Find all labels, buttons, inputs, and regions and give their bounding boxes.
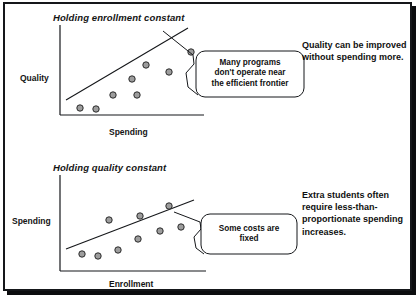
scatter-point [77,105,83,111]
scatter-point [129,76,135,82]
scatter-point [143,62,149,68]
callout-line: the efficient frontier [200,79,300,89]
scatter-point [166,69,172,75]
chart-top-frontier-line [66,28,188,100]
chart-bottom-callout-tail [174,212,204,254]
scatter-point [135,236,141,242]
chart-bottom-scatter-points [79,203,184,259]
chart-top-scatter-points [77,49,194,112]
scatter-point [93,106,99,112]
chart-top-x-axis-label: Spending [109,127,148,137]
chart-top-callout-tail [163,31,198,95]
chart-bottom-cost-line [66,200,194,249]
chart-bottom-x-axis-label: Enrollment [109,279,153,289]
chart-bottom-y-axis-label: Spending [12,216,51,226]
slide-canvas: Holding enrollment constant [0,0,419,298]
callout-line: fixed [205,234,293,244]
scatter-point [106,217,112,223]
scatter-point [157,228,163,234]
callout-line: Some costs are [205,224,293,234]
chart-top-side-note: Quality can be improved without spending… [302,39,414,63]
chart-bottom-side-note: Extra students often require less-than-p… [302,189,414,238]
chart-top-y-axis-label: Quality [20,73,49,83]
scatter-point [137,213,143,219]
scatter-point [95,253,101,259]
scatter-point [110,92,116,98]
slide-content: Holding enrollment constant [8,7,407,286]
chart-bottom-callout-text: Some costs are fixed [205,224,293,245]
scatter-point [134,92,140,98]
chart-top-callout-text: Many programs don't operate near the eff… [200,58,300,89]
scatter-point [178,224,184,230]
scatter-point [115,247,121,253]
scatter-point [79,251,85,257]
callout-line: Many programs [200,58,300,68]
scatter-point [166,203,172,209]
callout-line: don't operate near [200,68,300,78]
